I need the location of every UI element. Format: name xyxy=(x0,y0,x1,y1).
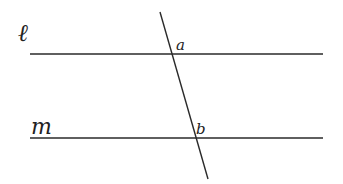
label-line-l: ℓ xyxy=(18,19,28,47)
label-point-b: b xyxy=(196,120,206,138)
parallel-lines-diagram: ℓ m a b xyxy=(0,0,343,184)
label-point-a: a xyxy=(176,36,185,54)
label-line-m: m xyxy=(31,114,52,139)
